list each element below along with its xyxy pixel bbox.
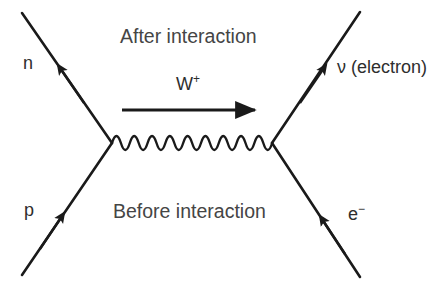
electron-label: e− bbox=[348, 203, 365, 223]
neutrino-label: ν (electron) bbox=[337, 58, 427, 76]
w-boson-label-base: W bbox=[176, 74, 193, 94]
before-interaction-label: Before interaction bbox=[113, 202, 266, 222]
w-boson-label: W+ bbox=[176, 73, 200, 93]
proton-line bbox=[22, 143, 112, 275]
feynman-diagram: After interaction Before interaction n p… bbox=[0, 0, 444, 291]
electron-line bbox=[272, 143, 360, 277]
fermion-line-neutron bbox=[22, 13, 112, 143]
proton-arrowhead bbox=[40, 216, 62, 249]
w-boson-label-superscript: + bbox=[193, 72, 200, 86]
proton-label: p bbox=[24, 201, 34, 219]
electron-label-superscript: − bbox=[358, 202, 365, 216]
neutrino-line bbox=[272, 12, 360, 143]
fermion-line-electron bbox=[272, 143, 360, 277]
electron-arrowhead bbox=[322, 219, 345, 254]
fermion-line-neutrino bbox=[272, 12, 360, 143]
neutrino-arrowhead bbox=[300, 68, 324, 103]
fermion-line-proton bbox=[22, 143, 112, 275]
neutron-label: n bbox=[23, 54, 33, 72]
electron-label-base: e bbox=[348, 204, 358, 224]
after-interaction-label: After interaction bbox=[120, 27, 257, 47]
w-boson-wavy-propagator bbox=[112, 136, 272, 150]
neutron-arrowhead bbox=[60, 68, 84, 103]
